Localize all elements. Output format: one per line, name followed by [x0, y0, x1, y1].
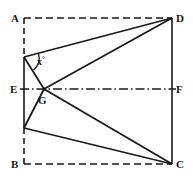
geometry-diagram: A B C D E F G x° — [0, 0, 193, 181]
diagram-canvas — [0, 0, 193, 181]
segment-G-C-diagonal — [44, 89, 172, 164]
segment-Q-C-diagonal — [24, 128, 172, 164]
vertex-label-f: F — [176, 84, 183, 95]
angle-label-x: x° — [37, 54, 45, 67]
vertex-label-a: A — [11, 13, 19, 24]
vertex-label-b: B — [11, 159, 18, 170]
segment-P-D-diagonal — [24, 18, 172, 57]
degree-symbol: ° — [42, 55, 45, 63]
vertex-label-g: G — [38, 95, 47, 106]
vertex-label-d: D — [176, 13, 184, 24]
vertex-label-c: C — [176, 159, 184, 170]
vertex-dot-G — [42, 87, 45, 90]
vertex-label-e: E — [10, 84, 17, 95]
segment-G-D-diagonal — [44, 18, 172, 89]
